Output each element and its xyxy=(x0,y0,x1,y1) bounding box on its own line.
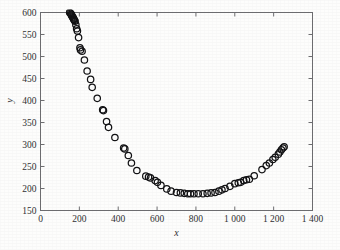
data-point xyxy=(105,124,111,130)
data-point xyxy=(81,57,87,63)
x-tick-label: 1 000 xyxy=(224,214,246,224)
data-point xyxy=(84,68,90,74)
y-tick-label: 400 xyxy=(22,96,37,106)
data-point xyxy=(75,34,81,40)
x-tick-label: 800 xyxy=(189,214,204,224)
data-points xyxy=(66,9,287,197)
data-point xyxy=(134,167,140,173)
data-point xyxy=(212,189,218,195)
x-tick-label: 0 xyxy=(38,214,43,224)
y-tick-label: 350 xyxy=(22,118,37,128)
plot-frame xyxy=(41,13,313,211)
y-tick-label: 200 xyxy=(22,184,37,194)
x-tick-label: 200 xyxy=(72,214,87,224)
figure-container: 02004006008001 0001 2001 400 15020025030… xyxy=(0,0,340,250)
x-tick-label: 600 xyxy=(150,214,165,224)
y-tick-label: 450 xyxy=(22,74,37,84)
scatter-plot: 02004006008001 0001 2001 400 15020025030… xyxy=(0,0,340,250)
x-axis-label: x xyxy=(173,227,179,238)
data-point xyxy=(125,152,131,158)
data-point xyxy=(89,84,95,90)
y-axis-ticks: 150200250300350400450500550600 xyxy=(22,8,312,216)
data-point xyxy=(87,76,93,82)
x-tick-label: 1 200 xyxy=(263,214,285,224)
y-tick-label: 550 xyxy=(22,30,37,40)
y-tick-label: 600 xyxy=(22,8,37,18)
data-point xyxy=(251,173,257,179)
data-point xyxy=(94,95,100,101)
y-tick-label: 150 xyxy=(22,206,37,216)
y-tick-label: 300 xyxy=(22,140,37,150)
y-axis-label: y xyxy=(4,98,15,104)
data-point xyxy=(128,160,134,166)
data-point xyxy=(112,134,118,140)
x-tick-label: 1 400 xyxy=(302,214,324,224)
y-tick-label: 250 xyxy=(22,162,37,172)
y-tick-label: 500 xyxy=(22,52,37,62)
x-tick-label: 400 xyxy=(111,214,126,224)
